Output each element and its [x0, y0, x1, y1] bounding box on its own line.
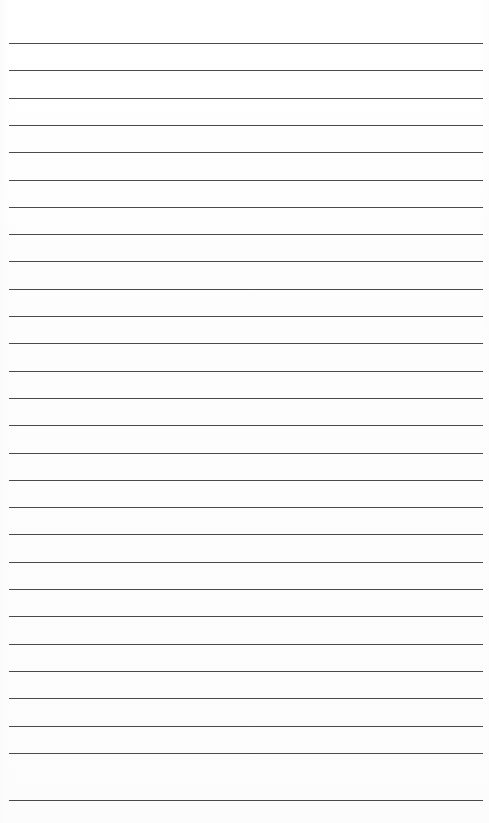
ruled-line	[9, 753, 483, 754]
ruled-line	[9, 371, 483, 372]
ruled-line	[9, 671, 483, 672]
ruled-line	[9, 726, 483, 727]
ruled-line	[9, 534, 483, 535]
ruled-line	[9, 98, 483, 99]
ruled-line	[9, 616, 483, 617]
ruled-line	[9, 289, 483, 290]
ruled-line	[9, 207, 483, 208]
ruled-line	[9, 644, 483, 645]
ruled-line	[9, 343, 483, 344]
ruled-line	[9, 453, 483, 454]
ruled-line	[9, 316, 483, 317]
ruled-line	[9, 425, 483, 426]
ruled-line	[9, 261, 483, 262]
ruled-line	[9, 70, 483, 71]
ruled-line	[9, 800, 483, 801]
ruled-line	[9, 43, 483, 44]
ruled-line	[9, 589, 483, 590]
ruled-line	[9, 562, 483, 563]
ruled-line	[9, 234, 483, 235]
ruled-line	[9, 507, 483, 508]
ruled-line	[9, 152, 483, 153]
ruled-line	[9, 480, 483, 481]
document-page	[0, 0, 489, 823]
ruled-line	[9, 125, 483, 126]
ruled-lines-layer	[0, 0, 489, 823]
ruled-line	[9, 698, 483, 699]
ruled-line	[9, 180, 483, 181]
ruled-line	[9, 398, 483, 399]
